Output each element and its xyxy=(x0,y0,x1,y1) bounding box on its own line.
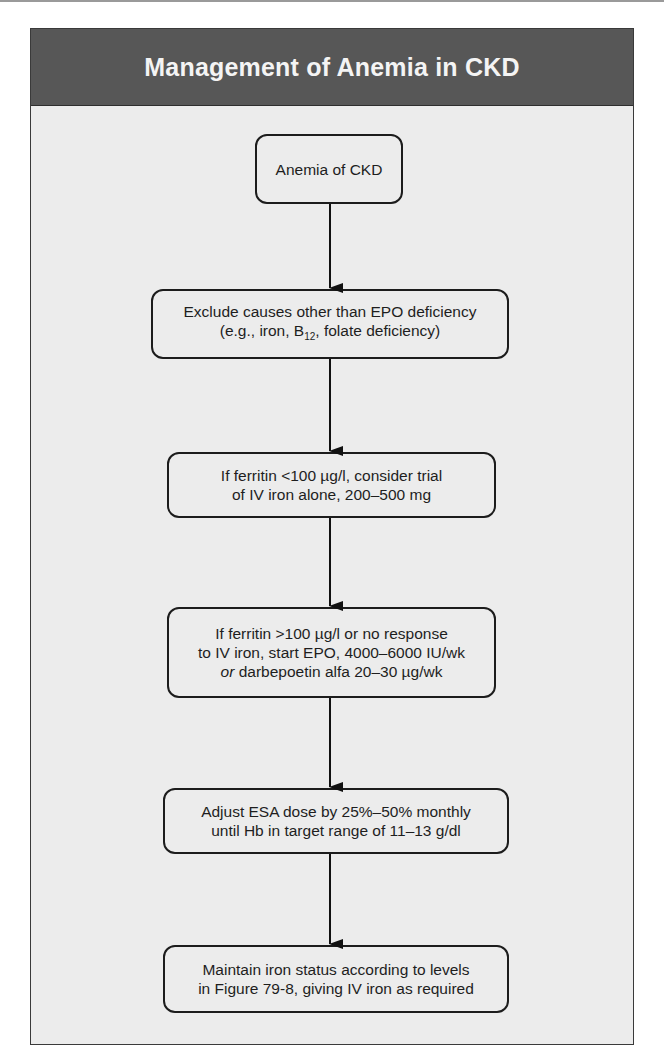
node-text: If ferritin >100 µg/l or no response xyxy=(215,624,448,643)
node-anemia-of-ckd: Anemia of CKD xyxy=(255,134,403,204)
node-text: until Hb in target range of 11–13 g/dl xyxy=(211,821,461,840)
node-text: (e.g., iron, B12, folate deficiency) xyxy=(220,321,441,346)
node-text: If ferritin <100 µg/l, consider trial xyxy=(221,466,442,485)
node-text: Exclude causes other than EPO deficiency xyxy=(184,302,477,321)
node-text: of IV iron alone, 200–500 mg xyxy=(232,485,431,504)
node-text: Adjust ESA dose by 25%–50% monthly xyxy=(201,802,471,821)
node-text: Anemia of CKD xyxy=(276,160,383,179)
node-start-epo: If ferritin >100 µg/l or no response to … xyxy=(167,607,496,698)
node-iv-iron-trial: If ferritin <100 µg/l, consider trial of… xyxy=(167,452,496,518)
node-text: in Figure 79-8, giving IV iron as requir… xyxy=(198,979,474,998)
figure-header: Management of Anemia in CKD xyxy=(31,29,633,106)
node-maintain-iron: Maintain iron status according to levels… xyxy=(163,945,509,1013)
node-exclude-causes: Exclude causes other than EPO deficiency… xyxy=(151,289,509,359)
figure-title: Management of Anemia in CKD xyxy=(144,53,519,82)
node-text: to IV iron, start EPO, 4000–6000 IU/wk xyxy=(198,643,465,662)
node-adjust-esa: Adjust ESA dose by 25%–50% monthly until… xyxy=(163,788,509,854)
node-text: Maintain iron status according to levels xyxy=(202,960,469,979)
node-text: or darbepoetin alfa 20–30 µg/wk xyxy=(221,662,443,681)
